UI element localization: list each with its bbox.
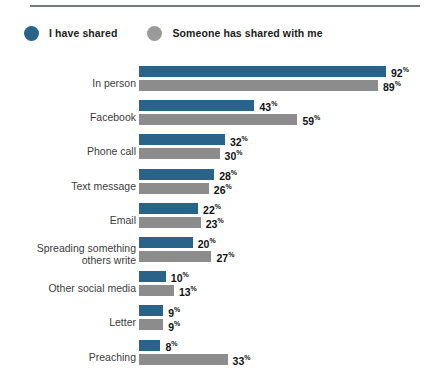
category-label-facebook: Facebook [6, 111, 136, 123]
bar-rect [139, 114, 297, 125]
bar-rect [139, 66, 386, 77]
bar-text-message-blue: 28% [139, 169, 237, 180]
bar-in-person-gray: 89% [139, 80, 409, 91]
bar-rect [139, 305, 163, 316]
bar-value-label: 92% [391, 64, 409, 79]
bar-group-email: 22%23% [139, 203, 224, 228]
category-label-in-person: In person [6, 77, 136, 89]
percent-sign: % [231, 169, 237, 176]
bar-rect [139, 340, 160, 351]
bar-email-blue: 22% [139, 203, 224, 214]
chart-legend: I have shared Someone has shared with me [24, 22, 323, 44]
bar-preaching-gray: 33% [139, 354, 251, 365]
percent-sign: % [236, 149, 242, 156]
bar-preaching-blue: 8% [139, 340, 251, 351]
legend-label-someone-has-shared-with-me: Someone has shared with me [172, 27, 322, 39]
percent-sign: % [228, 251, 234, 258]
percent-sign: % [215, 203, 221, 210]
bar-rect [139, 354, 228, 365]
bar-text-message-gray: 26% [139, 183, 237, 194]
bar-value-label: 9% [168, 304, 180, 319]
bar-rect [139, 217, 201, 228]
percent-sign: % [314, 114, 320, 121]
bar-rect [139, 285, 174, 296]
bar-group-facebook: 43%59% [139, 100, 320, 125]
bar-group-other-social-media: 10%13% [139, 271, 197, 296]
bar-value-label: 28% [219, 167, 237, 182]
percent-sign: % [209, 237, 215, 244]
bar-group-preaching: 8%33% [139, 340, 251, 365]
bar-value-label: 32% [230, 133, 248, 148]
bar-in-person-blue: 92% [139, 66, 409, 77]
bar-value-label: 22% [203, 201, 221, 216]
bar-rect [139, 203, 198, 214]
percent-sign: % [242, 135, 248, 142]
category-label-letter: Letter [6, 316, 136, 328]
percent-sign: % [171, 340, 177, 347]
percent-sign: % [191, 285, 197, 292]
bar-rect [139, 100, 254, 111]
bar-rect [139, 183, 209, 194]
bar-value-label: 26% [214, 181, 232, 196]
bar-value-label: 33% [233, 352, 251, 367]
bar-other-social-media-gray: 13% [139, 285, 197, 296]
bar-value-label: 9% [168, 318, 180, 333]
bar-email-gray: 23% [139, 217, 224, 228]
bar-group-spreading-something-others-write: 20%27% [139, 237, 234, 262]
percent-sign: % [174, 306, 180, 313]
plot-area: In person92%89%Facebook43%59%Phone call3… [0, 66, 439, 381]
header-divider [30, 5, 420, 7]
bar-value-label: 30% [225, 147, 243, 162]
chart-container: I have shared Someone has shared with me… [0, 0, 439, 385]
category-label-other-social-media: Other social media [6, 282, 136, 294]
percent-sign: % [271, 100, 277, 107]
category-label-text-message: Text message [6, 180, 136, 192]
bar-rect [139, 251, 211, 262]
bar-value-label: 27% [216, 249, 234, 264]
bar-rect [139, 148, 220, 159]
category-label-preaching: Preaching [6, 351, 136, 363]
category-label-phone-call: Phone call [6, 145, 136, 157]
bar-phone-call-gray: 30% [139, 148, 248, 159]
bar-facebook-gray: 59% [139, 114, 320, 125]
bar-rect [139, 319, 163, 330]
circle-marker-gray-icon [147, 26, 162, 41]
legend-label-i-have-shared: I have shared [49, 27, 117, 39]
bar-value-label: 20% [198, 235, 216, 250]
bar-other-social-media-blue: 10% [139, 271, 197, 282]
bar-letter-gray: 9% [139, 319, 180, 330]
bar-value-label: 23% [206, 215, 224, 230]
category-label-spreading-something-others-write: Spreading something others write [6, 242, 136, 266]
bar-group-phone-call: 32%30% [139, 134, 248, 159]
percent-sign: % [174, 320, 180, 327]
percent-sign: % [183, 271, 189, 278]
category-label-email: Email [6, 214, 136, 226]
bar-rect [139, 271, 166, 282]
bar-value-label: 10% [171, 269, 189, 284]
percent-sign: % [217, 217, 223, 224]
bar-value-label: 8% [165, 338, 177, 353]
bar-group-letter: 9%9% [139, 305, 180, 330]
percent-sign: % [244, 354, 250, 361]
legend-item-someone-has-shared-with-me: Someone has shared with me [147, 26, 322, 41]
bar-rect [139, 169, 214, 180]
bar-spreading-something-others-write-gray: 27% [139, 251, 234, 262]
legend-item-i-have-shared: I have shared [24, 26, 117, 41]
bar-spreading-something-others-write-blue: 20% [139, 237, 234, 248]
percent-sign: % [403, 66, 409, 73]
percent-sign: % [225, 183, 231, 190]
bar-facebook-blue: 43% [139, 100, 320, 111]
bar-value-label: 13% [179, 283, 197, 298]
bar-group-text-message: 28%26% [139, 169, 237, 194]
bar-letter-blue: 9% [139, 305, 180, 316]
bar-phone-call-blue: 32% [139, 134, 248, 145]
bar-value-label: 59% [302, 112, 320, 127]
bar-group-in-person: 92%89% [139, 66, 409, 91]
bar-rect [139, 134, 225, 145]
bar-rect [139, 80, 378, 91]
percent-sign: % [395, 80, 401, 87]
circle-marker-blue-icon [24, 26, 39, 41]
bar-value-label: 43% [259, 98, 277, 113]
bar-rect [139, 237, 193, 248]
bar-value-label: 89% [383, 78, 401, 93]
